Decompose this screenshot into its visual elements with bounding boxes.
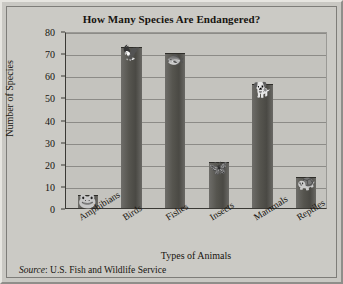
y-tick-label: 0 <box>29 204 55 215</box>
gridline <box>66 188 326 189</box>
bar: 🦋 <box>209 162 229 208</box>
gridline <box>66 99 326 100</box>
y-tick-label: 30 <box>29 137 55 148</box>
gridline <box>66 33 326 34</box>
y-tick-label: 20 <box>29 159 55 170</box>
bar: 🐕 <box>252 84 272 208</box>
source-note: Source: U.S. Fish and Wildlife Service <box>19 265 166 275</box>
bird-icon: 🦅 <box>118 46 144 61</box>
y-tick-label: 80 <box>29 27 55 38</box>
fish-icon: 🐟 <box>162 52 188 67</box>
y-tick-label: 40 <box>29 115 55 126</box>
plot-area: 🐸🦅🐟🦋🐕🐢 <box>65 32 327 209</box>
gridline <box>66 77 326 78</box>
y-tick-label: 50 <box>29 93 55 104</box>
bar: 🦅 <box>121 47 141 209</box>
gridline <box>66 122 326 123</box>
source-word: Source <box>19 265 45 275</box>
chart-frame: How Many Species Are Endangered? Number … <box>0 0 343 284</box>
butterfly-icon: 🦋 <box>206 161 232 176</box>
y-tick-label: 60 <box>29 71 55 82</box>
y-tick-label: 70 <box>29 49 55 60</box>
mammal-icon: 🐕 <box>249 83 275 98</box>
y-axis-label: Number of Species <box>4 60 15 137</box>
bar: 🐟 <box>165 53 185 208</box>
chart-title: How Many Species Are Endangered? <box>7 13 336 25</box>
x-axis-label: Types of Animals <box>65 250 327 261</box>
y-tick-label: 10 <box>29 181 55 192</box>
gridline <box>66 55 326 56</box>
source-text: U.S. Fish and Wildlife Service <box>50 265 166 275</box>
chart-panel: How Many Species Are Endangered? Number … <box>6 6 337 278</box>
gridline <box>66 144 326 145</box>
gridline <box>66 166 326 167</box>
turtle-icon: 🐢 <box>293 176 319 191</box>
